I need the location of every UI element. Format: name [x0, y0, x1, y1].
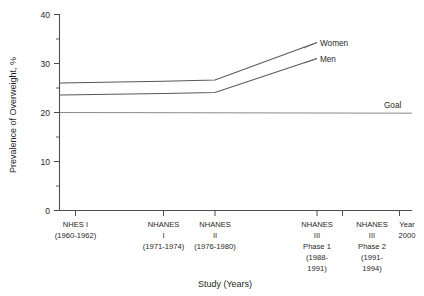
series-label-women: Women [320, 39, 349, 48]
x-label-line1: NHANES [301, 220, 333, 229]
x-label-line2: II [213, 231, 217, 240]
x-label-line2: III [314, 231, 320, 240]
x-category-nhanes-ii: NHANES II (1976-1980) [194, 220, 236, 251]
x-category-year-2000: Year 2000 [399, 220, 416, 240]
x-label-line4: (1991- [361, 253, 383, 262]
y-axis-title: Prevalence of Overweight, % [8, 57, 18, 173]
x-axis-ticks [76, 211, 400, 217]
x-label-line1: NHANES [356, 220, 388, 229]
x-label-line1: NHES I [63, 220, 88, 229]
x-label-line4: (1988- [306, 253, 328, 262]
men-line [60, 59, 317, 96]
x-category-nhanes-i: NHANES I (1971-1974) [143, 220, 185, 251]
x-axis-category-labels: NHES I (1960-1962) NHANES I (1971-1974) … [55, 220, 416, 273]
x-axis-title: Study (Years) [198, 279, 252, 289]
y-tick-label-20: 20 [41, 108, 51, 118]
x-label-line3: (1976-1980) [194, 242, 236, 251]
chart-svg: Prevalence of Overweight, % 40 30 20 10 … [0, 0, 424, 296]
y-tick-label-30: 30 [41, 59, 51, 69]
x-category-nhanes-iii-phase-1: NHANES III Phase 1 (1988- 1991) [301, 220, 333, 273]
series-label-goal: Goal [384, 101, 401, 110]
y-tick-label-40: 40 [41, 10, 51, 20]
x-label-line2: (1960-1962) [55, 231, 97, 240]
x-label-line5: 1994) [362, 264, 382, 273]
x-label-line5: 1991) [307, 264, 327, 273]
women-line [60, 43, 317, 84]
series-label-men: Men [320, 55, 336, 64]
x-label-line1: Year [399, 220, 415, 229]
x-label-line2: 2000 [399, 231, 416, 240]
y-axis-tick-labels: 40 30 20 10 0 [41, 10, 51, 216]
women-leader-line [304, 43, 317, 49]
x-label-line3: (1971-1974) [143, 242, 185, 251]
x-label-line3: Phase 2 [358, 242, 386, 251]
x-category-nhanes-iii-phase-2: NHANES III Phase 2 (1991- 1994) [356, 220, 388, 273]
prevalence-of-overweight-line-chart: Prevalence of Overweight, % 40 30 20 10 … [0, 0, 424, 296]
x-label-line1: NHANES [199, 220, 231, 229]
y-tick-label-0: 0 [45, 206, 50, 216]
x-label-line1: NHANES [148, 220, 180, 229]
goal-line [60, 113, 412, 114]
men-leader-line [304, 59, 317, 64]
y-axis-ticks [54, 15, 60, 211]
x-category-nhes-i: NHES I (1960-1962) [55, 220, 97, 240]
y-tick-label-10: 10 [41, 157, 51, 167]
x-label-line2: I [162, 231, 164, 240]
x-label-line3: Phase 1 [303, 242, 331, 251]
x-label-line2: III [369, 231, 375, 240]
